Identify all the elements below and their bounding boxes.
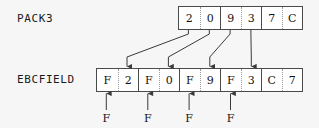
source-field-label: PACK3 (17, 12, 53, 25)
fill-label: F (227, 112, 235, 125)
nibble-cell: 0 (159, 69, 180, 91)
nibble-cell: 2 (179, 7, 200, 29)
nibble-cell: F (97, 69, 118, 91)
mapping-arrow (127, 30, 188, 67)
nibble-cell: 9 (220, 7, 241, 29)
pack-to-zone-conversion-diagram: PACK3 EBCFIELD 20937C F2F0F9F3C7 FFFF (0, 0, 319, 128)
nibble-cell: 7 (282, 69, 303, 91)
nibble-cell: 7 (261, 7, 282, 29)
nibble-cell: C (282, 7, 303, 29)
nibble-cell: 2 (118, 69, 139, 91)
nibble-cell: 0 (200, 7, 221, 29)
nibble-cell: 3 (241, 7, 262, 29)
fill-label: F (185, 112, 193, 125)
nibble-cell: 9 (200, 69, 221, 91)
mapping-arrow (168, 30, 209, 67)
source-field-strip: 20937C (178, 6, 303, 30)
nibble-cell: C (261, 69, 282, 91)
nibble-mapping-arrows (127, 30, 251, 67)
nibble-cell: F (220, 69, 241, 91)
fill-nibble-arrows (106, 94, 230, 111)
fill-label: F (144, 112, 152, 125)
fill-label: F (102, 112, 110, 125)
nibble-cell: F (138, 69, 159, 91)
mapping-arrow (210, 30, 230, 67)
target-field-strip: F2F0F9F3C7 (96, 68, 303, 92)
nibble-cell: F (179, 69, 200, 91)
nibble-cell: 3 (241, 69, 262, 91)
target-field-label: EBCFIELD (17, 73, 75, 86)
